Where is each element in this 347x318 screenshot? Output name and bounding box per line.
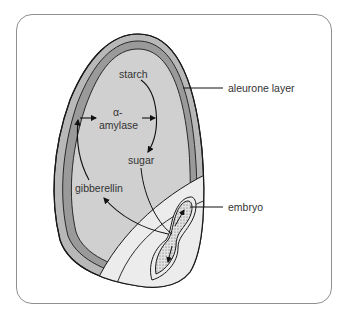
label-starch: starch xyxy=(119,68,148,80)
label-gibberellin: gibberellin xyxy=(75,182,123,194)
seed-diagram: starch α- amylase sugar gibberellin aleu… xyxy=(0,0,347,318)
label-embryo: embryo xyxy=(228,201,263,213)
label-alpha: α- xyxy=(113,106,123,118)
label-amylase: amylase xyxy=(99,119,138,131)
label-aleurone-layer: aleurone layer xyxy=(228,82,295,94)
label-sugar: sugar xyxy=(128,154,155,166)
